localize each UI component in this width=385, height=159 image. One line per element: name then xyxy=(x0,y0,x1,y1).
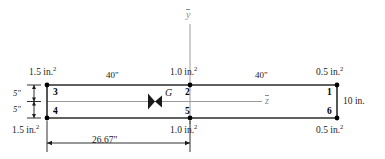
node-dot-4 xyxy=(45,116,50,121)
area-label-bottom-middle: 1.0 in.2 xyxy=(170,126,197,136)
z-bar-axis-label: z xyxy=(265,96,269,106)
vdim-arrow-up-a xyxy=(32,85,36,89)
node-label-6: 6 xyxy=(327,107,332,117)
vdim-arrow-lo-b xyxy=(32,114,36,118)
node-label-5: 5 xyxy=(185,107,190,117)
area-label-bottom-left: 1.5 in.2 xyxy=(12,126,39,136)
area-label-bottom-right: 0.5 in.2 xyxy=(316,126,343,136)
left-vertical-dimension xyxy=(27,85,41,118)
node-dot-6 xyxy=(335,116,340,121)
span-label-right: 40" xyxy=(255,71,268,80)
cross-section-figure: y z G 1.5 in.2 1.0 in.2 0.5 in.2 1.5 in.… xyxy=(0,0,385,159)
bdim-arrow-left xyxy=(47,141,52,145)
height-label-total: 10 in. xyxy=(343,97,365,107)
height-label-lower: 5" xyxy=(13,105,21,114)
bottom-dimension xyxy=(47,121,190,152)
y-bar-axis-label: y xyxy=(186,10,190,20)
centroid-label: G xyxy=(165,88,172,98)
node-label-1: 1 xyxy=(327,88,332,98)
span-label-left: 40" xyxy=(106,71,119,80)
vdim-arrow-up-b xyxy=(32,98,36,102)
node-label-3: 3 xyxy=(53,88,58,98)
node-dot-1 xyxy=(335,83,340,88)
bowtie-centroid-icon xyxy=(148,94,162,110)
centroid-distance-label: 26.67" xyxy=(92,136,117,146)
area-label-top-middle: 1.0 in.2 xyxy=(170,68,197,78)
area-label-top-right: 0.5 in.2 xyxy=(316,68,343,78)
area-label-top-left: 1.5 in.2 xyxy=(29,68,56,78)
axis-group xyxy=(47,24,262,124)
node-dot-3 xyxy=(45,83,50,88)
node-label-4: 4 xyxy=(53,107,58,117)
vdim-arrow-lo-a xyxy=(32,102,36,106)
bdim-arrow-right xyxy=(185,141,190,145)
height-label-upper: 5" xyxy=(13,89,21,98)
node-label-2: 2 xyxy=(185,88,190,98)
